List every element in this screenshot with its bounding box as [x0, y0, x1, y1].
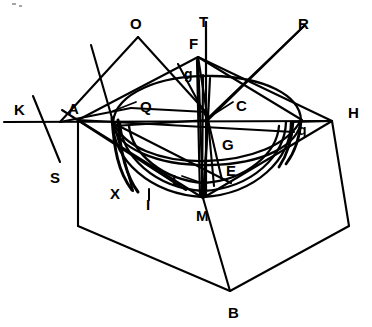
scan-speck-2	[19, 5, 22, 7]
label-C: C	[236, 98, 247, 113]
label-G: G	[222, 137, 234, 152]
label-X: X	[110, 186, 120, 201]
label-E: E	[226, 163, 236, 178]
label-K: K	[14, 102, 25, 117]
label-B: B	[228, 305, 239, 320]
bottom-edge-B-H	[230, 226, 349, 291]
figure-drawing	[0, 0, 372, 327]
ruling-line-S	[33, 96, 60, 162]
geometric-figure: O T R F g Q C K A H q G E S L X I M B	[0, 0, 372, 327]
ruling-line-F-H	[198, 57, 302, 120]
label-T: T	[199, 14, 208, 29]
label-M: M	[196, 208, 209, 223]
label-Q: Q	[140, 99, 152, 114]
label-g: g	[184, 67, 193, 81]
label-q: q	[298, 123, 307, 137]
bottom-edge-A-B	[78, 226, 230, 291]
scan-speck-1	[12, 3, 16, 5]
label-A: A	[68, 101, 79, 116]
side-edge-H	[332, 121, 349, 226]
label-R: R	[298, 16, 309, 31]
label-O: O	[130, 16, 142, 31]
label-L: L	[172, 172, 181, 187]
ruling-line-X	[91, 45, 133, 191]
label-I: I	[146, 197, 150, 212]
label-F: F	[189, 36, 198, 51]
label-H: H	[348, 105, 359, 120]
label-S: S	[50, 170, 60, 185]
ruling-line-R	[206, 26, 304, 120]
